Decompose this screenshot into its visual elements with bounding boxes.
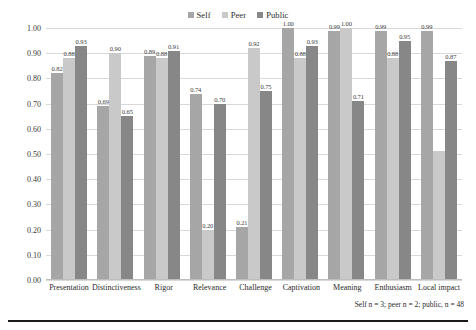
bar-slot: 0.20 [202,28,214,280]
legend-item-label: Public [266,10,288,20]
bar-peer[interactable]: 1.00 [340,28,352,280]
bar-slot: 0.82 [51,28,63,280]
bar-slot: 0.75 [260,28,272,280]
bar-value-label: 0.99 [329,23,340,30]
bar-public[interactable]: 0.65 [121,116,133,280]
bar-value-label: 1.00 [341,20,352,27]
y-axis-tick-label: 1.00 [27,24,41,33]
x-axis-label: Rigor [141,283,187,292]
bar-slot: 0.88 [156,28,168,280]
legend-item-public[interactable]: Public [257,10,288,20]
bar-value-label: 0.21 [236,219,247,226]
x-axis-label: Relevance [187,283,233,292]
bar-self[interactable]: 0.99 [421,31,433,280]
bar-value-label: 0.20 [202,222,213,229]
bar-slot: 0.91 [168,28,180,280]
bar-peer[interactable] [433,151,445,280]
bar-self[interactable]: 1.00 [282,28,294,280]
bar-group: 0.690.900.65 [92,28,138,280]
legend-swatch-icon [188,12,194,18]
legend-item-label: Self [197,10,211,20]
y-axis-tick-label: 0.80 [27,74,41,83]
x-axis-label: Local impact [416,283,462,292]
bar-value-label: 0.88 [156,50,167,57]
bar-self[interactable]: 0.82 [51,73,63,280]
y-axis-tick-label: 0.50 [27,150,41,159]
bar-public[interactable]: 0.71 [352,101,364,280]
bar-public[interactable]: 0.87 [445,61,457,280]
bar-self[interactable]: 0.99 [328,31,340,280]
bar-slot: 0.99 [421,28,433,280]
bar-slot: 1.00 [282,28,294,280]
x-axis-label: Presentation [46,283,92,292]
bar-group: 0.890.880.91 [138,28,184,280]
bar-value-label: 0.75 [260,83,271,90]
y-axis-tick-label: 0.40 [27,175,41,184]
bar-peer[interactable]: 0.90 [109,53,121,280]
bar-value-label: 1.00 [283,20,294,27]
bar-groups: 0.820.880.930.690.900.650.890.880.910.74… [46,28,462,280]
bar-slot: 0.99 [375,28,387,280]
bar-value-label: 0.87 [445,53,456,60]
bar-value-label: 0.90 [110,45,121,52]
bar-public[interactable]: 0.70 [214,104,226,280]
bar-group: 0.990.880.95 [370,28,416,280]
bar-peer[interactable]: 0.20 [202,230,214,280]
bar-self[interactable]: 0.69 [97,106,109,280]
bar-slot: 1.00 [340,28,352,280]
bar-value-label: 0.70 [214,96,225,103]
bar-value-label: 0.89 [144,48,155,55]
bar-self[interactable]: 0.74 [190,94,202,280]
y-axis-tick-label: 0.60 [27,124,41,133]
bar-slot: 0.88 [63,28,75,280]
bar-value-label: 0.74 [190,86,201,93]
plot-area: 1.000.900.800.700.600.500.400.300.200.10… [46,28,462,280]
bar-slot: 0.74 [190,28,202,280]
bar-value-label: 0.71 [353,93,364,100]
bar-value-label: 0.92 [248,40,259,47]
bar-group: 0.990.87 [416,28,462,280]
bar-slot: 0.87 [445,28,457,280]
bar-slot: 0.71 [352,28,364,280]
bar-slot: 0.69 [97,28,109,280]
bar-value-label: 0.93 [307,38,318,45]
bar-peer[interactable]: 0.92 [248,48,260,280]
bar-self[interactable]: 0.21 [236,227,248,280]
chart-caption: Self n = 3; peer n = 2; public, n = 48 [355,300,464,309]
y-axis-tick-label: 0.90 [27,49,41,58]
bar-public[interactable]: 0.95 [399,41,411,280]
bar-value-label: 0.95 [399,33,410,40]
x-axis-label: Enthusiasm [370,283,416,292]
legend-item-self[interactable]: Self [188,10,211,20]
x-axis-label: Captivation [278,283,324,292]
bar-self[interactable]: 0.89 [144,56,156,280]
bar-peer[interactable]: 0.88 [294,58,306,280]
bar-value-label: 0.91 [168,43,179,50]
y-axis-tick-label: 0.30 [27,200,41,209]
bar-slot: 0.92 [248,28,260,280]
bar-group: 0.210.920.75 [231,28,277,280]
bar-slot: 0.95 [399,28,411,280]
bar-value-label: 0.88 [295,50,306,57]
bar-value-label: 0.82 [52,65,63,72]
bar-slot: 0.90 [109,28,121,280]
bar-public[interactable]: 0.93 [75,46,87,280]
chart-legend: SelfPeerPublic [0,10,476,20]
bar-public[interactable]: 0.93 [306,46,318,280]
y-axis-tick-label: 0.20 [27,225,41,234]
bar-self[interactable]: 0.99 [375,31,387,280]
gridline: 0.00 [46,280,462,281]
x-axis-label: Meaning [324,283,370,292]
bar-value-label: 0.65 [122,108,133,115]
bar-peer[interactable]: 0.88 [63,58,75,280]
bar-peer[interactable]: 0.88 [156,58,168,280]
legend-item-peer[interactable]: Peer [222,10,247,20]
bar-group: 0.740.200.70 [185,28,231,280]
bar-slot: 0.21 [236,28,248,280]
bar-peer[interactable]: 0.88 [387,58,399,280]
bar-public[interactable]: 0.75 [260,91,272,280]
y-axis-tick-label: 0.10 [27,250,41,259]
x-axis-line [46,279,462,280]
y-axis-tick-label: 0.70 [27,99,41,108]
bar-public[interactable]: 0.91 [168,51,180,280]
